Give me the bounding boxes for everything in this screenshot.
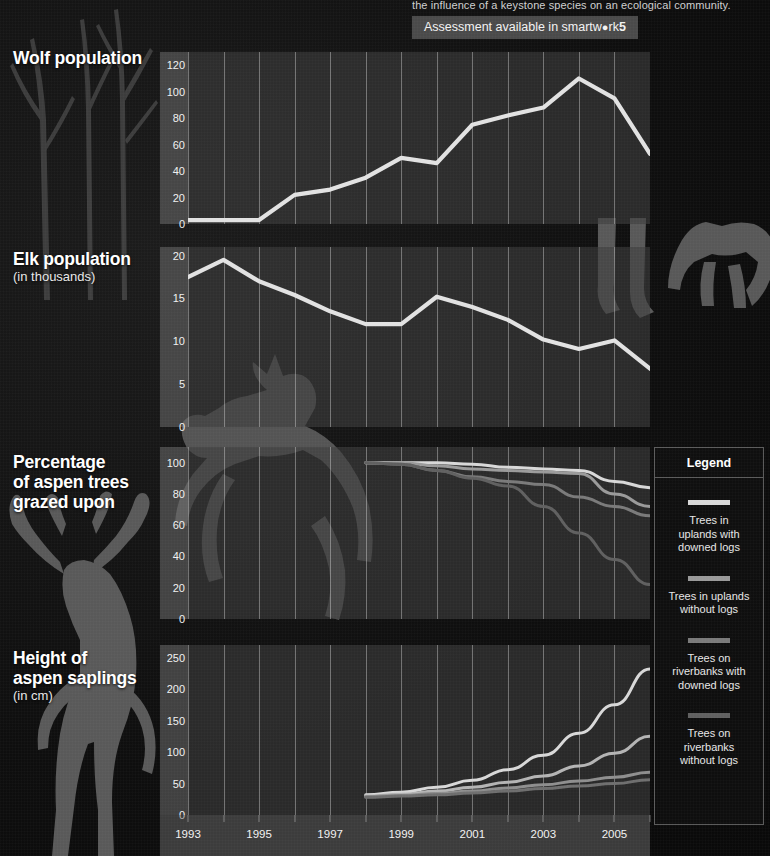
y-tick-label: 100 (167, 457, 185, 468)
panel-subtitle-elk: (in thousands) (13, 269, 163, 285)
y-tick-label: 120 (167, 60, 185, 71)
x-tick-label: 1997 (317, 828, 343, 840)
panel-title-elk: Elk population (13, 249, 163, 269)
panel-label-wolf: Wolf population (13, 48, 163, 68)
panel-label-elk: Elk population (in thousands) (13, 249, 163, 285)
x-axis-notch (436, 815, 437, 822)
x-axis-notch (650, 815, 651, 822)
x-axis-notch (330, 815, 331, 822)
y-axis-aspen: 020406080100 (160, 447, 188, 619)
x-axis-notch (294, 815, 295, 822)
y-tick-label: 5 (179, 379, 185, 390)
badge-prefix: Assessment available in smartw (424, 20, 602, 34)
x-axis-notch (223, 815, 224, 822)
series-canvas (188, 52, 650, 224)
chart-panel-wolf-population: 020406080100120 (160, 52, 650, 224)
x-tick-label: 1995 (246, 828, 272, 840)
legend-item[interactable]: Trees inuplands withdowned logs (655, 500, 763, 555)
legend-swatch (688, 638, 730, 643)
series-canvas (188, 247, 650, 427)
data-series-line (366, 463, 650, 507)
y-tick-label: 150 (167, 715, 185, 726)
y-tick-label: 20 (173, 250, 185, 261)
data-series-line (366, 463, 650, 488)
y-axis-elk: 05101520 (160, 247, 188, 427)
infographic-page: the influence of a keystone species on a… (0, 0, 770, 856)
legend-item[interactable]: Trees onriverbankswithout logs (655, 713, 763, 768)
legend-items: Trees inuplands withdowned logsTrees in … (655, 478, 763, 768)
x-axis-notch (578, 815, 579, 822)
legend-label: Trees onriverbankswithout logs (660, 727, 758, 768)
x-tick-label: 2003 (531, 828, 557, 840)
badge-mid: rk (609, 20, 619, 34)
legend-item[interactable]: Trees in uplandswithout logs (655, 576, 763, 617)
chart-panel-aspen-grazed: 020406080100 (160, 447, 650, 619)
series-canvas (188, 447, 650, 619)
panel-title-wolf: Wolf population (13, 48, 163, 68)
legend-swatch (688, 500, 730, 505)
x-tick-label: 1993 (175, 828, 201, 840)
y-tick-label: 60 (173, 139, 185, 150)
data-series-line (188, 260, 650, 369)
panel-title-saplings: Height ofaspen saplings (13, 648, 163, 688)
x-axis-notch (507, 815, 508, 822)
legend-label: Trees onriverbanks withdowned logs (660, 652, 758, 693)
y-tick-label: 0 (179, 219, 185, 230)
x-axis-notch (259, 815, 260, 822)
legend-item[interactable]: Trees onriverbanks withdowned logs (655, 638, 763, 693)
y-tick-label: 250 (167, 652, 185, 663)
legend-swatch (688, 713, 730, 718)
x-axis-notch (401, 815, 402, 822)
y-tick-label: 80 (173, 488, 185, 499)
y-tick-label: 100 (167, 86, 185, 97)
y-tick-label: 60 (173, 520, 185, 531)
plot-area-elk (188, 247, 650, 427)
x-axis-notch (614, 815, 615, 822)
y-tick-label: 200 (167, 684, 185, 695)
plot-area-aspen (188, 447, 650, 619)
panel-subtitle-saplings: (in cm) (13, 688, 163, 704)
y-tick-label: 40 (173, 551, 185, 562)
y-axis-wolf: 020406080100120 (160, 52, 188, 224)
y-tick-label: 100 (167, 747, 185, 758)
legend-swatch (688, 576, 730, 581)
legend-label: Trees inuplands withdowned logs (660, 514, 758, 555)
x-axis-notch (188, 815, 189, 822)
y-tick-label: 0 (179, 614, 185, 625)
x-tick-label: 1999 (388, 828, 414, 840)
badge-dot-icon: ● (602, 21, 609, 33)
y-axis-saplings: 050100150200250 (160, 645, 188, 815)
x-axis-notch (543, 815, 544, 822)
y-tick-label: 20 (173, 582, 185, 593)
series-canvas (188, 645, 650, 815)
data-series-line (188, 78, 650, 220)
header-caption: the influence of a keystone species on a… (412, 0, 770, 12)
y-tick-label: 40 (173, 166, 185, 177)
y-tick-label: 20 (173, 192, 185, 203)
x-tick-label: 2001 (460, 828, 486, 840)
x-tick-label: 2005 (602, 828, 628, 840)
plot-area-saplings (188, 645, 650, 815)
x-axis-notch (472, 815, 473, 822)
legend-title: Legend (655, 448, 763, 478)
y-tick-label: 50 (173, 778, 185, 789)
panel-title-aspen: Percentageof aspen treesgrazed upon (13, 452, 163, 512)
chart-panel-aspen-saplings: 050100150200250 (160, 645, 650, 815)
badge-version: 5 (619, 20, 626, 34)
x-axis-years: 1993199519971999200120032005 (160, 815, 650, 856)
legend-label: Trees in uplandswithout logs (660, 590, 758, 617)
y-tick-label: 15 (173, 293, 185, 304)
y-tick-label: 10 (173, 336, 185, 347)
y-tick-label: 80 (173, 113, 185, 124)
panel-label-aspen: Percentageof aspen treesgrazed upon (13, 452, 163, 512)
plot-area-wolf (188, 52, 650, 224)
smartwork-assessment-badge[interactable]: Assessment available in smartw●rk5 (412, 16, 638, 39)
panel-label-saplings: Height ofaspen saplings (in cm) (13, 648, 163, 704)
legend-panel: Legend Trees inuplands withdowned logsTr… (654, 447, 764, 825)
y-tick-label: 0 (179, 422, 185, 433)
chart-panel-elk-population: 05101520 (160, 247, 650, 427)
x-axis-notch (365, 815, 366, 822)
data-series-line (366, 669, 650, 795)
